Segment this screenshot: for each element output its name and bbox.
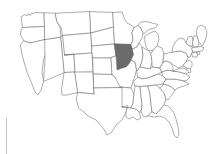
state-washington[interactable] bbox=[22, 13, 45, 28]
state-nevada[interactable] bbox=[44, 37, 65, 82]
state-arkansas[interactable] bbox=[120, 87, 134, 108]
state-kansas[interactable] bbox=[93, 58, 112, 75]
left-vertical-rule bbox=[6, 118, 7, 154]
state-texas[interactable] bbox=[76, 88, 128, 136]
map-container bbox=[0, 0, 214, 154]
state-massachusetts[interactable] bbox=[192, 47, 204, 53]
united-states-map[interactable] bbox=[0, 0, 214, 154]
state-wyoming[interactable] bbox=[63, 33, 93, 55]
state-nebraska[interactable] bbox=[92, 44, 116, 58]
state-new-mexico[interactable] bbox=[75, 72, 94, 94]
state-montana[interactable] bbox=[56, 12, 92, 36]
state-california[interactable] bbox=[21, 40, 48, 96]
state-minnesota[interactable] bbox=[113, 12, 134, 45]
